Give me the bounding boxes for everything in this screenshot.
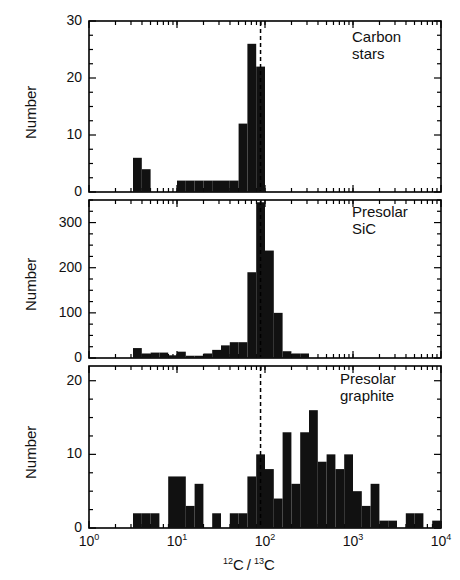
y-tick-label: 300 <box>0 214 82 230</box>
histogram-bar <box>212 350 221 358</box>
histogram-bar <box>265 469 274 528</box>
histogram-bar <box>186 181 195 192</box>
histogram-bar <box>177 181 186 192</box>
panel-label-line1: Presolar <box>340 370 396 387</box>
histogram-bar <box>230 513 239 528</box>
histogram-bar <box>406 513 415 528</box>
x-axis-title: 12C / 13C <box>223 556 275 573</box>
histogram-bar <box>221 181 230 192</box>
histogram-bar <box>212 181 221 192</box>
histogram-bar <box>318 462 327 528</box>
y-tick-label: 0 <box>0 349 82 365</box>
panel-label-line1: Presolar <box>352 203 408 220</box>
histogram-bar <box>177 352 186 358</box>
histogram-bar <box>274 499 283 528</box>
y-tick-label: 200 <box>0 259 82 275</box>
histogram-bar <box>388 521 397 528</box>
histogram-bar <box>239 513 248 528</box>
histogram-bar <box>151 513 160 528</box>
histogram-bar <box>291 353 300 358</box>
panel-label-line2: SiC <box>352 220 376 237</box>
histogram-bar <box>151 353 160 358</box>
histogram-bar <box>415 513 424 528</box>
panel-label-carbon-stars: Carbonstars <box>352 28 401 62</box>
histogram-bar <box>177 476 186 528</box>
histogram-bar <box>265 251 274 358</box>
histogram-bar <box>432 521 441 528</box>
histogram-bar <box>353 491 362 528</box>
histogram-bar <box>230 181 239 192</box>
histogram-bar <box>309 410 318 528</box>
histogram-bar <box>142 513 151 528</box>
x-tick-label: 100 <box>69 532 109 549</box>
histogram-bar <box>195 181 204 192</box>
y-tick-label: 10 <box>0 445 82 461</box>
histogram-bar <box>142 353 151 358</box>
x-tick-label: 102 <box>245 532 285 549</box>
panel-label-line2: stars <box>352 45 385 62</box>
histogram-bar <box>344 454 353 528</box>
histogram-bar <box>133 158 142 192</box>
histogram-bar <box>133 513 142 528</box>
y-tick-label: 100 <box>0 304 82 320</box>
histogram-bar <box>379 521 388 528</box>
histogram-bar <box>212 513 221 528</box>
y-tick-label: 20 <box>0 372 82 388</box>
y-tick-label: 30 <box>0 12 82 28</box>
histogram-bar <box>239 124 248 192</box>
histogram-bar <box>195 356 204 358</box>
histogram-bar <box>335 469 344 528</box>
x-tick-label: 104 <box>421 532 460 549</box>
histogram-bar <box>159 353 168 358</box>
histogram-bar <box>283 432 292 528</box>
histogram-bar <box>186 356 195 358</box>
x-tick-label: 103 <box>333 532 373 549</box>
histogram-bar <box>186 506 195 528</box>
histogram-bar <box>291 484 300 528</box>
y-tick-label: 0 <box>0 183 82 199</box>
histogram-bar <box>362 506 371 528</box>
panel-label-line2: graphite <box>340 387 394 404</box>
histogram-bar <box>247 476 256 528</box>
histogram-bar <box>195 484 204 528</box>
histogram-bar <box>239 342 248 358</box>
y-tick-label: 10 <box>0 126 82 142</box>
y-tick-label: 20 <box>0 69 82 85</box>
histogram-bar <box>274 313 283 358</box>
histogram-bar <box>203 353 212 358</box>
x-tick-label: 101 <box>157 532 197 549</box>
histogram-bar <box>168 355 177 358</box>
histogram-bar <box>221 345 230 358</box>
histogram-bar <box>168 476 177 528</box>
histogram-bar <box>283 351 292 358</box>
histogram-bar <box>247 272 256 358</box>
histogram-bar <box>371 484 380 528</box>
histogram-bar <box>133 348 142 358</box>
histogram-bar <box>300 353 309 358</box>
histogram-bar <box>203 181 212 192</box>
histogram-bar <box>247 44 256 192</box>
histogram-bar <box>230 342 239 358</box>
panel-label-presolar-sic: PresolarSiC <box>352 203 408 237</box>
panel-label-presolar-graphite: Presolargraphite <box>340 370 396 404</box>
histogram-bar <box>327 454 336 528</box>
histogram-bar <box>300 432 309 528</box>
panel-label-line1: Carbon <box>352 28 401 45</box>
histogram-bar <box>142 169 151 192</box>
carbon-isotope-histogram-figure <box>0 0 460 580</box>
